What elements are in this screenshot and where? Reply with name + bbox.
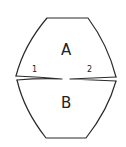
two-region-barrel-diagram [0, 0, 126, 147]
crack-line-2 [70, 77, 116, 81]
point-1-label: 1 [32, 66, 37, 74]
point-2-label: 2 [87, 66, 92, 74]
region-b-label: B [61, 96, 71, 111]
region-a-label: A [61, 43, 71, 58]
crack-line-1 [16, 76, 62, 80]
